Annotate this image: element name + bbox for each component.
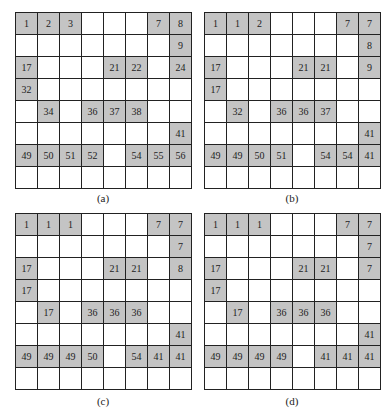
empty-cell: [293, 280, 314, 301]
empty-cell: [249, 324, 270, 345]
labeled-cell: 24: [170, 57, 191, 78]
labeled-cell: 49: [16, 346, 37, 367]
empty-cell: [60, 35, 81, 56]
empty-cell: [337, 35, 358, 56]
labeled-cell: 50: [249, 145, 270, 166]
labeled-cell: 7: [170, 236, 191, 257]
empty-cell: [16, 302, 37, 323]
labeled-cell: 36: [271, 101, 292, 122]
empty-cell: [293, 35, 314, 56]
empty-cell: [38, 236, 59, 257]
empty-cell: [148, 35, 169, 56]
empty-cell: [60, 101, 81, 122]
labeled-cell: 1: [205, 13, 226, 34]
empty-cell: [337, 280, 358, 301]
empty-cell: [38, 258, 59, 279]
empty-cell: [60, 167, 81, 188]
empty-cell: [227, 236, 248, 257]
labeled-cell: 17: [205, 280, 226, 301]
empty-cell: [126, 123, 147, 144]
labeled-cell: 49: [249, 346, 270, 367]
empty-cell: [271, 13, 292, 34]
empty-cell: [249, 258, 270, 279]
empty-cell: [293, 214, 314, 235]
empty-cell: [148, 324, 169, 345]
empty-cell: [104, 236, 125, 257]
labeled-cell: 36: [126, 302, 147, 323]
labeled-cell: 17: [205, 79, 226, 100]
empty-cell: [205, 35, 226, 56]
empty-cell: [16, 35, 37, 56]
empty-cell: [315, 280, 336, 301]
empty-cell: [148, 258, 169, 279]
empty-cell: [249, 280, 270, 301]
labeled-cell: 7: [359, 214, 380, 235]
panel-c: 111777172121817173636364149494950544141 …: [15, 213, 191, 413]
empty-cell: [227, 280, 248, 301]
labeled-cell: 36: [315, 302, 336, 323]
labeled-cell: 17: [227, 302, 248, 323]
empty-cell: [126, 167, 147, 188]
empty-cell: [148, 79, 169, 100]
empty-cell: [38, 324, 59, 345]
labeled-cell: 41: [170, 324, 191, 345]
empty-cell: [249, 57, 270, 78]
empty-cell: [82, 324, 103, 345]
labeled-cell: 21: [104, 57, 125, 78]
empty-cell: [249, 167, 270, 188]
labeled-cell: 34: [38, 101, 59, 122]
labeled-cell: 8: [359, 35, 380, 56]
labeled-cell: 21: [293, 57, 314, 78]
labeled-cell: 50: [82, 346, 103, 367]
empty-cell: [16, 123, 37, 144]
labeled-cell: 1: [205, 214, 226, 235]
empty-cell: [337, 368, 358, 389]
empty-cell: [359, 101, 380, 122]
labeled-cell: 17: [16, 57, 37, 78]
empty-cell: [205, 236, 226, 257]
labeled-cell: 17: [16, 258, 37, 279]
labeled-cell: 1: [16, 214, 37, 235]
empty-cell: [16, 236, 37, 257]
empty-cell: [38, 79, 59, 100]
empty-cell: [60, 368, 81, 389]
labeled-cell: 49: [16, 145, 37, 166]
empty-cell: [170, 101, 191, 122]
empty-cell: [359, 79, 380, 100]
labeled-cell: 17: [205, 57, 226, 78]
empty-cell: [104, 79, 125, 100]
empty-cell: [38, 57, 59, 78]
labeled-cell: 49: [227, 346, 248, 367]
empty-cell: [126, 368, 147, 389]
labeled-cell: 54: [126, 346, 147, 367]
empty-cell: [38, 280, 59, 301]
empty-cell: [293, 13, 314, 34]
empty-cell: [293, 368, 314, 389]
empty-cell: [271, 57, 292, 78]
labeled-cell: 41: [359, 123, 380, 144]
empty-cell: [82, 368, 103, 389]
empty-cell: [205, 302, 226, 323]
labeled-cell: 2: [249, 13, 270, 34]
empty-cell: [315, 13, 336, 34]
empty-cell: [104, 324, 125, 345]
empty-cell: [126, 35, 147, 56]
empty-cell: [170, 79, 191, 100]
labeled-cell: 7: [359, 236, 380, 257]
labeled-cell: 41: [359, 324, 380, 345]
empty-cell: [315, 167, 336, 188]
empty-cell: [271, 324, 292, 345]
empty-cell: [82, 214, 103, 235]
label-grid-d: 111777172121717173636364149494949414141: [204, 213, 381, 390]
empty-cell: [104, 167, 125, 188]
labeled-cell: 37: [315, 101, 336, 122]
empty-cell: [227, 324, 248, 345]
empty-cell: [82, 79, 103, 100]
labeled-cell: 54: [126, 145, 147, 166]
labeled-cell: 22: [126, 57, 147, 78]
empty-cell: [205, 324, 226, 345]
empty-cell: [104, 123, 125, 144]
labeled-cell: 55: [148, 145, 169, 166]
panel-b: 112778172121917323636374149495051545441 …: [204, 12, 380, 212]
empty-cell: [359, 302, 380, 323]
